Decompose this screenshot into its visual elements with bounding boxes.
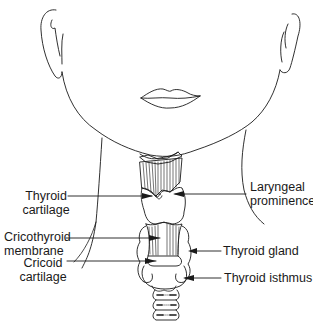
label-line: Thyroid [22, 189, 70, 203]
label-cricoid-cartilage: Cricoid cartilage [18, 256, 68, 284]
neck-right-side [242, 130, 264, 224]
thyroid-lobe-left [137, 226, 153, 283]
label-cricothyroid-membrane: Cricothyroid membrane [4, 230, 71, 258]
thyroid-isthmus-shape [142, 266, 187, 289]
anatomy-diagram: Thyroid cartilage Cricothyroid membrane … [0, 0, 313, 325]
label-line: cartilage [22, 203, 70, 217]
jaw-outline [62, 70, 280, 156]
label-line: cartilage [18, 270, 68, 284]
label-line: Thyroid gland [223, 244, 299, 258]
label-laryngeal-prominence: Laryngeal prominence [250, 180, 313, 208]
right-ear-icon [280, 14, 300, 73]
label-line: Cricoid [18, 256, 68, 270]
thyrohyoid-membrane [140, 158, 182, 196]
label-line: Laryngeal [250, 180, 313, 194]
label-line: Cricothyroid [4, 230, 71, 244]
mouth-icon [141, 89, 200, 108]
label-line: Thyroid isthmus [224, 271, 312, 285]
label-line: prominence [250, 194, 313, 208]
pointer-lines [66, 194, 246, 278]
label-thyroid-gland: Thyroid gland [223, 244, 299, 258]
label-thyroid-cartilage: Thyroid cartilage [22, 189, 70, 217]
label-thyroid-isthmus: Thyroid isthmus [224, 271, 312, 285]
left-ear-icon [41, 10, 63, 78]
trachea [153, 290, 179, 320]
